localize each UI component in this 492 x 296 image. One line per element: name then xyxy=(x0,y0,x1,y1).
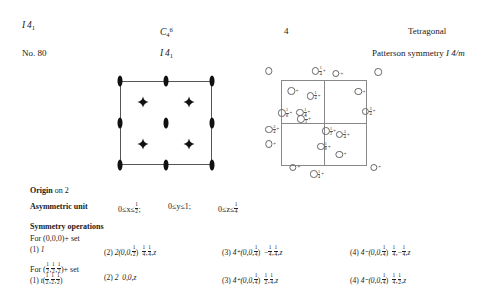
two-fold-axis-symbol xyxy=(210,160,215,171)
patterson-symmetry: Patterson symmetry I 4/m xyxy=(372,48,465,58)
point-group-symbol: 4 xyxy=(284,26,289,36)
two-fold-axis-symbol xyxy=(118,76,123,87)
position-circle-icon xyxy=(317,143,325,151)
position-sign-label: + xyxy=(378,164,382,170)
hermann-mauguin-symbol: I 41 xyxy=(22,20,35,31)
fraction: 14 xyxy=(402,245,406,257)
height-fraction: 14 xyxy=(319,66,322,75)
fraction: 14 xyxy=(382,245,386,257)
fraction: 12 xyxy=(45,273,49,285)
symmetry-operation-set1-1: (1) 1 xyxy=(30,245,44,254)
two-fold-axis-symbol xyxy=(118,160,123,171)
general-position-diagram: 14+++14++18+14+12+34+34++12+34+18+++14++ xyxy=(281,80,367,166)
height-fraction: 34 xyxy=(369,107,372,116)
position-circle-icon xyxy=(322,127,330,135)
position-circle-icon xyxy=(336,131,344,139)
position-sign-label: + xyxy=(308,116,312,122)
fraction: 12 xyxy=(56,273,60,285)
two-fold-axis-symbol xyxy=(164,118,169,129)
general-position-point: + xyxy=(287,80,298,98)
four-one-screw-axis-symbol xyxy=(183,138,195,150)
height-fraction: 12 xyxy=(330,127,333,136)
four-one-screw-axis-symbol xyxy=(183,96,195,108)
symmetry-operation-set1-3: (3) 4⁺(0,0,14) −14,14,z xyxy=(222,245,282,257)
origin-line: Origin on 2 xyxy=(30,186,69,195)
fraction: 14 xyxy=(254,273,258,285)
symmetry-operation-set2-2: (2) 2 0,0,z xyxy=(104,273,136,282)
position-sign-label: + xyxy=(362,89,366,95)
general-position-point: 12+ xyxy=(297,109,311,127)
position-sign-label: + xyxy=(340,71,344,77)
position-circle-icon xyxy=(310,170,318,178)
schoenflies-symbol: C46 xyxy=(160,26,173,38)
position-circle-icon xyxy=(370,164,378,172)
position-circle-icon xyxy=(354,88,362,96)
position-circle-icon xyxy=(336,151,344,159)
position-circle-icon xyxy=(265,67,273,75)
fraction: 14 xyxy=(148,245,152,257)
asymmetric-unit-y: 0≤y≤1; xyxy=(168,202,191,211)
position-sign-label: + xyxy=(297,164,301,170)
position-circle-icon xyxy=(307,92,315,100)
height-fraction: 34 xyxy=(273,125,276,134)
symmetry-operation-set1-4: (4) 4⁻(0,0,14) 14,−14,z xyxy=(350,245,410,257)
general-position-point: + xyxy=(370,157,381,175)
two-fold-axis-symbol xyxy=(164,76,169,87)
position-sign-label: + xyxy=(372,108,376,114)
position-sign-label: + xyxy=(273,141,277,147)
position-sign-label: + xyxy=(276,126,280,132)
fraction: 12 xyxy=(398,273,402,285)
position-circle-icon xyxy=(332,70,340,78)
fraction: 14 xyxy=(268,245,272,257)
four-one-screw-axis-symbol xyxy=(137,138,149,150)
position-circle-icon xyxy=(265,126,273,134)
general-position-point: 14+ xyxy=(310,164,324,182)
position-circle-icon xyxy=(278,109,286,117)
position-sign-label: + xyxy=(343,151,347,157)
general-position-point: + xyxy=(289,157,300,175)
position-sign-label: + xyxy=(346,132,350,138)
fraction: 14 xyxy=(382,273,386,285)
symmetry-operation-set2-1: (1) t(12,12,12) xyxy=(30,273,63,285)
height-fraction: 18 xyxy=(324,142,327,151)
asymmetric-unit-label: Asymmetric unit xyxy=(30,202,88,211)
space-group-number: No. 80 xyxy=(22,48,47,58)
general-position-point: 18+ xyxy=(317,136,331,154)
four-one-screw-axis-symbol xyxy=(137,96,149,108)
fraction: 12 xyxy=(264,273,268,285)
position-circle-icon xyxy=(297,115,305,123)
general-position-point: + xyxy=(332,63,343,81)
position-circle-icon xyxy=(265,140,273,148)
general-position-point: 14+ xyxy=(312,61,326,79)
general-position-point xyxy=(265,61,273,79)
two-fold-axis-symbol xyxy=(210,76,215,87)
position-circle-icon xyxy=(362,108,370,116)
height-fraction: 12 xyxy=(305,114,308,123)
two-fold-axis-symbol xyxy=(210,118,215,129)
symmetry-operation-set2-4: (4) 4⁻(0,0,14) 14,12,z xyxy=(350,273,406,285)
fraction: 14 xyxy=(274,245,278,257)
position-sign-label: + xyxy=(295,88,299,94)
symmetry-element-diagram xyxy=(120,81,212,165)
fraction: 12 xyxy=(51,273,55,285)
symmetry-operations-set1-label: For (0,0,0)+ set xyxy=(30,234,80,243)
fraction: 12 xyxy=(132,245,136,257)
symmetry-operation-set1-2: (2) 2(0,0,12) 14,14,z xyxy=(104,245,156,257)
crystal-system-label: Tetragonal xyxy=(408,26,446,36)
symmetry-operation-set2-3: (3) 4⁺(0,0,14) 12,14,z xyxy=(222,273,278,285)
symmetry-operations-title: Symmetry operations xyxy=(30,222,104,231)
position-sign-label: + xyxy=(322,68,326,74)
general-position-point: + xyxy=(265,134,276,152)
height-fraction: 14 xyxy=(314,91,317,100)
fraction: 14 xyxy=(142,245,146,257)
asymmetric-unit-z: 0≤z≤14 xyxy=(218,202,238,214)
general-position-point: 34+ xyxy=(362,101,376,119)
fraction: 14 xyxy=(392,273,396,285)
position-circle-icon xyxy=(287,87,295,95)
two-fold-axis-symbol xyxy=(118,118,123,129)
position-circle-icon xyxy=(289,164,297,172)
page-root: I 41 C46 4 Tetragonal No. 80 I 41 Patter… xyxy=(0,0,492,296)
general-position-point: + xyxy=(354,81,365,99)
position-sign-label: + xyxy=(328,144,332,150)
height-fraction: 18 xyxy=(286,108,289,117)
